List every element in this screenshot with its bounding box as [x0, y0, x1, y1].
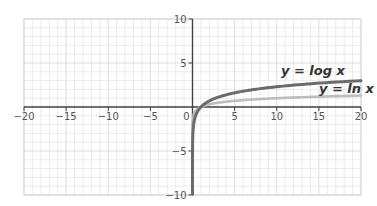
x-tick-label: 20 [355, 111, 368, 122]
y-tick-label: 10 [174, 14, 187, 25]
x-tick-label: 5 [231, 111, 237, 122]
y-tick-label: 5 [180, 58, 186, 69]
label-ln-x: y = ln x [319, 81, 375, 96]
label-log-x: y = log x [281, 63, 346, 78]
x-tick-label: −20 [13, 111, 34, 122]
x-tick-label: 0 [183, 111, 189, 122]
y-tick-label: −5 [172, 146, 187, 157]
x-tick-label: 10 [270, 111, 283, 122]
x-tick-label: −10 [98, 111, 119, 122]
log-functions-chart: −20−15−10−505101520105−5−10 y = log x y … [0, 0, 377, 206]
x-tick-label: −5 [143, 111, 158, 122]
x-tick-label: −15 [56, 111, 77, 122]
x-tick-label: 15 [313, 111, 326, 122]
y-tick-label: −10 [165, 190, 186, 201]
